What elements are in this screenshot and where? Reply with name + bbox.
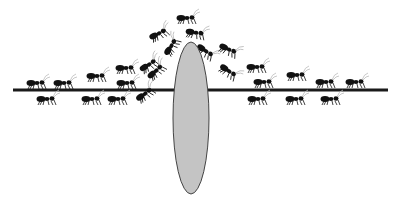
obstacle-ellipse xyxy=(173,42,209,194)
ant-icon xyxy=(117,74,141,89)
ant-icon xyxy=(286,90,310,105)
ant-icon xyxy=(217,37,245,61)
ants-crossing-diagram xyxy=(0,0,393,204)
ant-icon xyxy=(287,66,311,81)
ant-icon xyxy=(54,74,78,89)
ant-icon xyxy=(254,73,278,88)
ant-icon xyxy=(131,79,159,105)
ant-icon xyxy=(217,58,245,84)
ant-icon xyxy=(108,90,132,105)
ant-icon xyxy=(321,90,345,105)
ant-icon xyxy=(177,9,201,24)
ant-icon xyxy=(87,67,111,82)
ant-icon xyxy=(248,90,272,105)
ant-icon xyxy=(82,90,106,105)
ant-icon xyxy=(116,59,140,74)
ant-icon xyxy=(146,20,174,44)
ant-icon xyxy=(136,50,164,75)
ant-icon xyxy=(37,90,61,105)
ant-icon xyxy=(185,22,211,41)
ant-icon xyxy=(27,74,51,89)
ant-icon xyxy=(247,58,271,73)
ant-icon xyxy=(158,30,184,58)
diagram-canvas xyxy=(0,0,393,204)
ant-icon xyxy=(316,73,340,88)
ant-icon xyxy=(346,73,370,88)
